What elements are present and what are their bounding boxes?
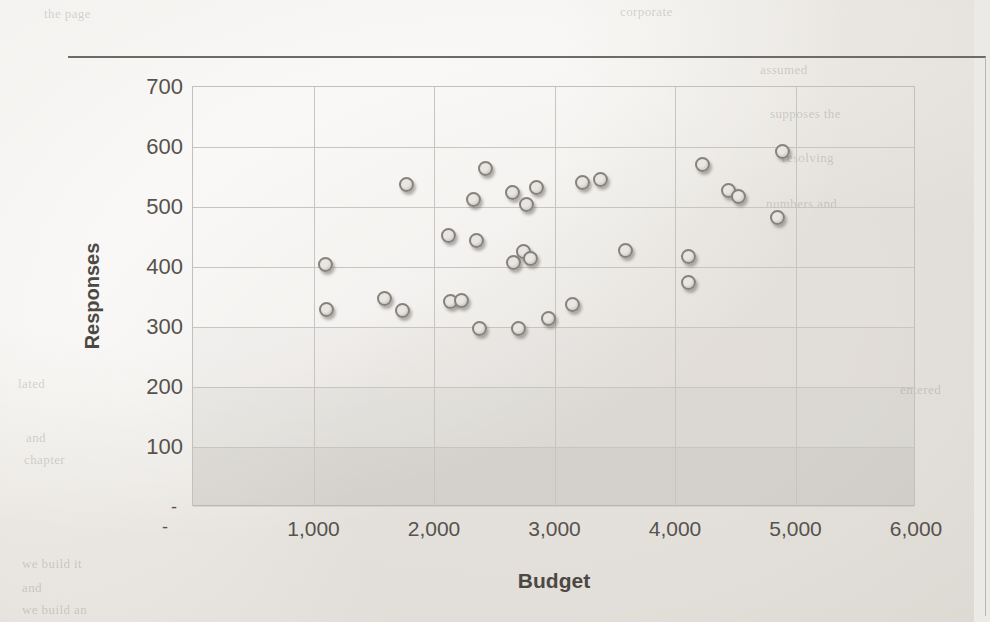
y-tick-label: 100	[146, 434, 183, 460]
data-point	[731, 189, 746, 204]
data-point	[775, 144, 790, 159]
gridline-horizontal	[193, 327, 914, 328]
gridline-vertical	[434, 87, 435, 505]
scan-shade-band-mid	[193, 387, 914, 447]
x-tick-label: 2,000	[408, 517, 461, 541]
data-point	[454, 293, 469, 308]
data-point	[519, 197, 534, 212]
data-point	[395, 303, 410, 318]
data-point	[681, 249, 696, 264]
data-point	[319, 302, 334, 317]
data-point	[505, 185, 520, 200]
y-tick-label: 200	[146, 374, 183, 400]
x-tick-label: 5,000	[769, 517, 822, 541]
gridline-horizontal	[193, 147, 914, 148]
data-point	[529, 180, 544, 195]
data-point	[575, 175, 590, 190]
gridline-horizontal	[193, 387, 914, 388]
x-tick-label: -	[162, 517, 168, 538]
data-point	[565, 297, 580, 312]
ghost-text: and	[22, 580, 42, 596]
data-point	[770, 210, 785, 225]
x-axis-title: Budget	[518, 569, 590, 593]
plot-area: -100200300400500600700 -1,0002,0003,0004…	[192, 86, 915, 506]
data-point	[469, 233, 484, 248]
data-point	[681, 275, 696, 290]
scatter-chart: Responses Budget -100200300400500600700 …	[40, 16, 990, 622]
data-point	[377, 291, 392, 306]
data-point	[618, 243, 633, 258]
gridline-vertical	[675, 87, 676, 505]
data-point	[695, 157, 710, 172]
gridline-horizontal	[193, 447, 914, 448]
y-tick-label: 700	[146, 74, 183, 100]
data-point	[399, 177, 414, 192]
y-axis-title: Responses	[81, 243, 104, 350]
scan-shade-band-upper	[193, 327, 914, 387]
data-point	[478, 161, 493, 176]
data-point	[466, 192, 481, 207]
gridline-horizontal	[193, 207, 914, 208]
data-point	[318, 257, 333, 272]
gridline-horizontal	[193, 267, 914, 268]
x-tick-label: 3,000	[528, 517, 581, 541]
data-point	[472, 321, 487, 336]
y-tick-label: 400	[146, 254, 183, 280]
gridline-vertical	[796, 87, 797, 505]
y-tick-label: 600	[146, 134, 183, 160]
gridline-vertical	[555, 87, 556, 505]
x-tick-label: 4,000	[649, 517, 702, 541]
data-point	[441, 228, 456, 243]
data-point	[523, 251, 538, 266]
scan-shade-band-lower	[193, 447, 914, 507]
data-point	[541, 311, 556, 326]
gridline-vertical	[314, 87, 315, 505]
y-tick-label: 300	[146, 314, 183, 340]
x-tick-label: 1,000	[287, 517, 340, 541]
y-tick-label: -	[171, 497, 177, 518]
data-point	[593, 172, 608, 187]
data-point	[511, 321, 526, 336]
y-tick-label: 500	[146, 194, 183, 220]
x-tick-label: 6,000	[890, 517, 943, 541]
